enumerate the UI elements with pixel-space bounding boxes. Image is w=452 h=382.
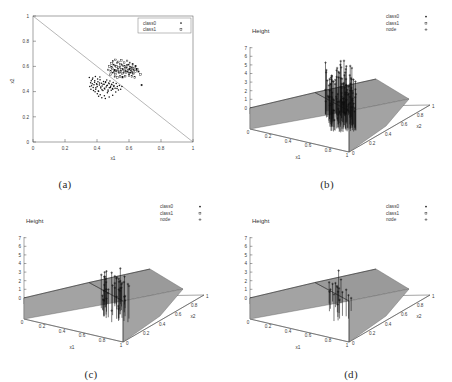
panel-b-caption: (b) (214, 178, 440, 190)
scatter-point (140, 74, 142, 76)
x-axis-label-c: x1 (69, 345, 74, 350)
scatter-point (92, 77, 94, 79)
x-tick-c-1: 0.2 (39, 324, 46, 329)
scatter-point (112, 94, 114, 96)
surface-plot-d: Height class0 class1 node 7 6 5 4 (226, 192, 452, 370)
x-tick-b-1: 0.2 (265, 134, 272, 139)
y-tick-d-5: 1 (432, 294, 435, 299)
z-tick-d-1: 1 (244, 287, 247, 292)
surface-plot-c: Height class0 class1 node 7 6 5 4 (0, 192, 226, 370)
scatter-point (114, 76, 116, 78)
scatter-point (110, 74, 112, 76)
scatter-point (113, 64, 115, 66)
node-marker (340, 60, 342, 62)
scatter-point (95, 87, 97, 89)
node-marker (354, 80, 356, 82)
scatter-point (129, 66, 131, 68)
scatter-point (94, 80, 96, 82)
scatter-point (111, 63, 113, 65)
node-marker (351, 67, 353, 69)
panel-a: 0 0.2 0.4 0.6 0.8 1 0 0.2 0.4 0.6 0.8 1 (0, 2, 226, 192)
x-tick-c-5: 1 (120, 343, 123, 348)
z-tick-d-4: 4 (244, 261, 247, 266)
y-tick-b-4: 0.8 (417, 113, 424, 118)
z-tick-d-5: 5 (244, 253, 247, 258)
y-tick-d-2: 0.4 (385, 322, 392, 327)
x-tick-a-2: 0.4 (94, 146, 101, 151)
scatter-point (109, 66, 111, 68)
legend-d-marker-class1 (425, 212, 427, 214)
z-tick-b-0: 0 (244, 106, 247, 111)
scatter-point (141, 84, 143, 86)
scatter-point (100, 86, 102, 88)
z-tick-c-4: 4 (18, 261, 21, 266)
y-tick-c-5: 1 (206, 294, 209, 299)
scatter-point (113, 85, 115, 87)
scatter-point (97, 81, 99, 83)
scatter-point (90, 80, 92, 82)
z-tick-c-5: 5 (18, 253, 21, 258)
legend-c-marker-class0 (199, 206, 201, 208)
x-tick-c-4: 0.8 (99, 338, 106, 343)
legend-b-item-2-label: node (386, 27, 397, 32)
scatter-point (120, 63, 122, 65)
scatter-point (110, 90, 112, 92)
y-axis-label-b: x2 (416, 124, 421, 129)
scatter-point (128, 75, 130, 77)
legend-a-marker-class0 (180, 22, 182, 24)
node-marker (352, 78, 354, 80)
scatter-point (99, 76, 101, 78)
z-axis-label-d: Height (252, 218, 270, 224)
legend-a: class0 class1 (138, 18, 191, 33)
decision-boundary-line (33, 16, 193, 142)
scatter-point (107, 69, 109, 71)
y-tick-a-2: 0.4 (23, 89, 30, 94)
scatter-points-a (89, 59, 143, 99)
scatter-point (115, 73, 117, 75)
z-tick-d-2: 2 (244, 279, 247, 284)
z-tick-d-6: 6 (244, 244, 247, 249)
node-marker (349, 65, 351, 67)
scatter-point (128, 64, 130, 66)
y-tick-b-3: 0.6 (401, 122, 408, 127)
node-marker (110, 271, 112, 273)
scatter-point (101, 89, 103, 91)
y-tick-c-2: 0.4 (159, 322, 166, 327)
legend-b-item-0-label: class0 (386, 14, 399, 19)
node-marker (334, 79, 336, 81)
scatter-point (105, 86, 107, 88)
z-tick-b-4: 4 (244, 71, 247, 76)
z-tick-b-7: 7 (244, 46, 247, 51)
scatter-point (91, 85, 93, 87)
y-tick-b-2: 0.4 (385, 132, 392, 137)
legend-a-item-0-label: class0 (143, 21, 156, 26)
legend-d-marker-node (425, 218, 428, 221)
scatter-point (126, 64, 128, 66)
z-tick-c-2: 2 (18, 279, 21, 284)
legend-c: class0 class1 node (160, 204, 201, 222)
scatter-point (97, 78, 99, 80)
scatter-point (90, 89, 92, 91)
panel-d: Height class0 class1 node 7 6 5 4 (226, 192, 452, 382)
scatter-point (119, 66, 121, 68)
scatter-point (114, 87, 116, 89)
legend-c-marker-class1 (199, 212, 201, 214)
x-tick-d-5: 1 (346, 343, 349, 348)
legend-c-marker-node (199, 218, 202, 221)
scatter-point (138, 71, 140, 73)
scatter-point (105, 81, 107, 83)
scatter-point (101, 97, 103, 99)
scatter-point (105, 98, 107, 100)
x-tick-a-3: 0.6 (126, 146, 133, 151)
scatter-point (126, 60, 128, 62)
scatter-point (108, 83, 110, 85)
x-tick-b-5: 1 (346, 153, 349, 158)
scatter-point (112, 61, 114, 63)
x-tick-a-0: 0 (32, 146, 35, 151)
scatter-point (125, 72, 127, 74)
scatter-point (94, 91, 96, 93)
scatter-point (97, 93, 99, 95)
scatter-point (123, 72, 125, 74)
node-marker (339, 64, 341, 66)
scatter-point (94, 81, 96, 83)
